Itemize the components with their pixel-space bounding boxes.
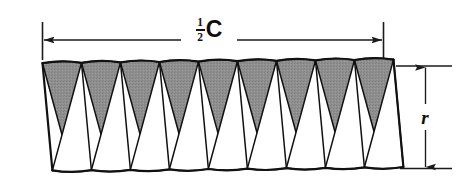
- fraction-denominator: 2: [196, 31, 204, 43]
- fraction-numerator: 1: [196, 17, 204, 29]
- half-circumference-label: 1 2 C: [181, 13, 237, 47]
- circumference-symbol: C: [206, 18, 223, 41]
- figure-container: 1 2 C r: [0, 0, 458, 191]
- radius-symbol: r: [421, 108, 428, 127]
- fraction-one-half: 1 2: [196, 17, 205, 44]
- wedge-strip: [43, 58, 404, 172]
- radius-label: r: [414, 104, 436, 130]
